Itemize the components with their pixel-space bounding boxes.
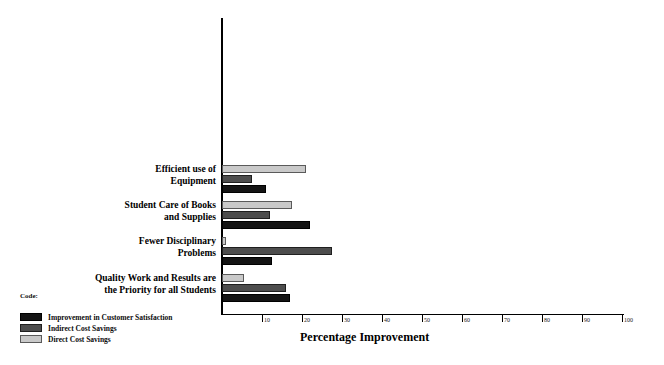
x-tick-80 xyxy=(542,315,543,322)
x-tick-label-20: 20 xyxy=(304,317,310,323)
legend-label: Improvement in Customer Satisfaction xyxy=(48,313,173,322)
legend-label: Indirect Cost Savings xyxy=(48,324,117,333)
x-tick-label-60: 60 xyxy=(464,317,470,323)
x-tick-label-80: 80 xyxy=(544,317,550,323)
bar-chart: 102030405060708090100 Efficient use of E… xyxy=(0,0,664,365)
legend-item-direct: Direct Cost Savings xyxy=(20,334,173,344)
x-tick-label-30: 30 xyxy=(344,317,350,323)
x-tick-50 xyxy=(422,315,423,322)
category-label-line: Efficient use of xyxy=(6,163,216,175)
category-label-line: Problems xyxy=(6,247,216,259)
x-tick-10 xyxy=(262,315,263,322)
category-label-line: Quality Work and Results are xyxy=(6,272,216,284)
legend-item-improvement: Improvement in Customer Satisfaction xyxy=(20,312,173,322)
x-tick-30 xyxy=(342,315,343,322)
bar-efficient-use-of-equipment-direct-cost-savings xyxy=(222,165,306,173)
x-tick-label-100: 100 xyxy=(624,317,633,323)
legend-label: Direct Cost Savings xyxy=(48,335,111,344)
legend-swatch-improvement xyxy=(20,313,42,321)
bar-quality-work-and-results-are-the-priority-for-all-students-improvement-in-customer-satisfaction xyxy=(222,294,290,302)
x-tick-70 xyxy=(502,315,503,322)
legend-swatch-direct xyxy=(20,335,42,343)
bar-student-care-of-books-and-supplies-direct-cost-savings xyxy=(222,201,292,209)
bar-quality-work-and-results-are-the-priority-for-all-students-indirect-cost-savings xyxy=(222,284,286,292)
x-tick-90 xyxy=(582,315,583,322)
category-label-fewer-disciplinary-problems: Fewer Disciplinary Problems xyxy=(6,235,216,259)
x-tick-label-90: 90 xyxy=(584,317,590,323)
bar-efficient-use-of-equipment-improvement-in-customer-satisfaction xyxy=(222,185,266,193)
category-label-line: Fewer Disciplinary xyxy=(6,235,216,247)
bar-fewer-disciplinary-problems-indirect-cost-savings xyxy=(222,247,332,255)
x-tick-label-70: 70 xyxy=(504,317,510,323)
x-tick-label-10: 10 xyxy=(264,317,270,323)
legend-swatch-indirect xyxy=(20,324,42,332)
category-label-line: and Supplies xyxy=(6,211,216,223)
category-label-line: Student Care of Books xyxy=(6,199,216,211)
bar-fewer-disciplinary-problems-direct-cost-savings xyxy=(222,237,226,245)
legend-title: Code: xyxy=(20,292,38,300)
bar-quality-work-and-results-are-the-priority-for-all-students-direct-cost-savings xyxy=(222,274,244,282)
legend-item-indirect: Indirect Cost Savings xyxy=(20,323,173,333)
category-label-efficient-use-of-equipment: Efficient use of Equipment xyxy=(6,163,216,187)
category-label-line: Equipment xyxy=(6,175,216,187)
x-tick-60 xyxy=(462,315,463,322)
x-tick-40 xyxy=(382,315,383,322)
x-axis-title: Percentage Improvement xyxy=(300,330,580,345)
x-tick-20 xyxy=(302,315,303,322)
bar-student-care-of-books-and-supplies-indirect-cost-savings xyxy=(222,211,270,219)
x-tick-100 xyxy=(622,315,623,322)
legend: Improvement in Customer SatisfactionIndi… xyxy=(20,312,173,345)
bar-student-care-of-books-and-supplies-improvement-in-customer-satisfaction xyxy=(222,221,310,229)
x-tick-label-40: 40 xyxy=(384,317,390,323)
x-tick-label-50: 50 xyxy=(424,317,430,323)
bar-fewer-disciplinary-problems-improvement-in-customer-satisfaction xyxy=(222,257,272,265)
category-label-student-care-of-books-and-supplies: Student Care of Books and Supplies xyxy=(6,199,216,223)
bar-efficient-use-of-equipment-indirect-cost-savings xyxy=(222,175,252,183)
